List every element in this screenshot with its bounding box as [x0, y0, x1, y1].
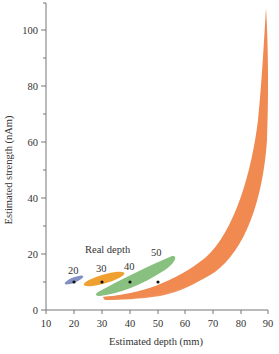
y-tick-label: 20	[28, 249, 39, 260]
y-tick-label: 60	[28, 137, 39, 148]
x-tick-label: 30	[97, 318, 108, 329]
chart: 0 20 40 60 80 100 10 20 30 40 50 60 70 8…	[0, 0, 279, 354]
x-tick-label: 60	[180, 318, 191, 329]
marker-50mm	[156, 280, 159, 283]
x-tick-label: 90	[263, 318, 274, 329]
x-tick-label: 20	[69, 318, 80, 329]
marker-20mm	[72, 280, 75, 283]
real-depth-label: Real depth	[85, 244, 131, 255]
y-tick-label: 0	[33, 305, 38, 316]
marker-30mm	[100, 280, 103, 283]
x-tick-label: 70	[208, 318, 219, 329]
depth-label-20: 20	[68, 265, 79, 276]
y-tick-label: 100	[22, 25, 38, 36]
x-tick-label: 40	[125, 318, 136, 329]
x-axis-title: Estimated depth (mm)	[109, 336, 203, 348]
y-axis-title: Estimated strength (nAm)	[3, 115, 15, 225]
x-tick-label: 10	[41, 318, 52, 329]
x-tick-label: 80	[236, 318, 247, 329]
x-tick-label: 50	[153, 318, 164, 329]
marker-40mm	[128, 280, 131, 283]
y-tick-label: 80	[28, 81, 39, 92]
x-ticks	[46, 310, 268, 314]
depth-label-30: 30	[96, 263, 107, 274]
depth-label-50: 50	[151, 247, 162, 258]
y-tick-label: 40	[28, 193, 39, 204]
band-50mm	[103, 8, 268, 300]
depth-label-40: 40	[124, 261, 135, 272]
y-ticks	[41, 3, 46, 310]
